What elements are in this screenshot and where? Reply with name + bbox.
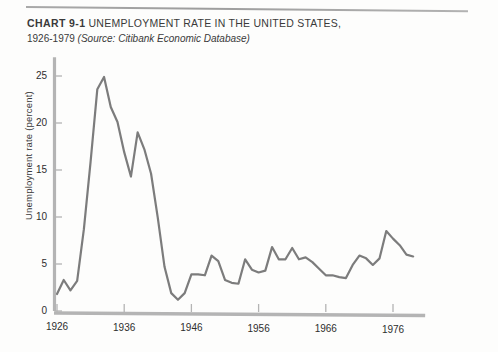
x-axis-tick-label: 1946: [171, 322, 211, 333]
y-axis-tick-label: 25: [25, 70, 47, 81]
data-series-group: [57, 77, 413, 300]
y-axis-tick-label: 15: [25, 164, 47, 175]
unemployment-rate-line: [57, 77, 413, 300]
chart-page: CHART 9-1 UNEMPLOYMENT RATE IN THE UNITE…: [0, 0, 498, 352]
x-axis-tick-label: 1936: [104, 322, 144, 333]
x-axis-line: [54, 313, 425, 316]
x-axis-tick-label: 1926: [37, 321, 77, 332]
line-chart-canvas: [0, 0, 498, 352]
x-axis-tick-label: 1976: [373, 324, 413, 335]
y-axis-tick-label: 0: [25, 305, 47, 316]
x-axis-tick-label: 1966: [306, 323, 346, 334]
y-axis-tick-label: 10: [25, 211, 47, 222]
plot-area: Unemployment rate (percent) 0510152025 1…: [0, 0, 498, 352]
y-axis-tick-label: 20: [25, 117, 47, 128]
x-axis-tick-label: 1956: [239, 323, 279, 334]
y-axis-tick-label: 5: [25, 258, 47, 269]
